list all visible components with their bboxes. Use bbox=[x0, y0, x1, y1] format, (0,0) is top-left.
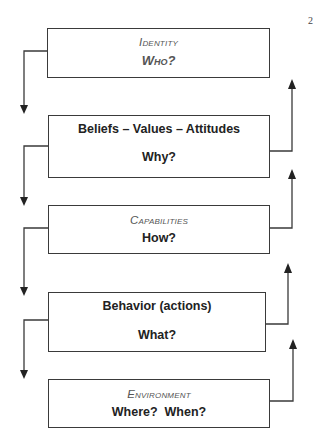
level-question: Who? bbox=[48, 53, 269, 68]
arrow-up-icon bbox=[289, 339, 297, 349]
level-box-behavior: Behavior (actions) What? bbox=[48, 292, 266, 352]
level-box-beliefs: Beliefs – Values – Attitudes Why? bbox=[48, 115, 270, 178]
arrow-up-icon bbox=[288, 169, 296, 179]
level-question: How? bbox=[49, 231, 269, 245]
level-box-capabilities: Capabilities How? bbox=[48, 205, 270, 254]
arrow-up-icon bbox=[288, 79, 296, 89]
level-title: Identity bbox=[48, 36, 269, 48]
level-box-environment: Environment Where? When? bbox=[48, 379, 270, 428]
level-question: Why? bbox=[49, 150, 269, 164]
arrow-down-icon bbox=[20, 197, 28, 206]
level-box-identity: Identity Who? bbox=[47, 28, 270, 78]
arrow-down-icon bbox=[20, 287, 28, 296]
arrow-down-icon bbox=[20, 370, 28, 379]
level-title: Behavior (actions) bbox=[49, 299, 265, 313]
level-question: What? bbox=[49, 328, 265, 342]
level-title: Beliefs – Values – Attitudes bbox=[49, 122, 269, 136]
level-question: Where? When? bbox=[49, 405, 269, 419]
arrow-up-icon bbox=[284, 263, 292, 273]
level-title: Capabilities bbox=[49, 214, 269, 226]
arrow-down-icon bbox=[20, 105, 28, 114]
level-title: Environment bbox=[49, 388, 269, 400]
